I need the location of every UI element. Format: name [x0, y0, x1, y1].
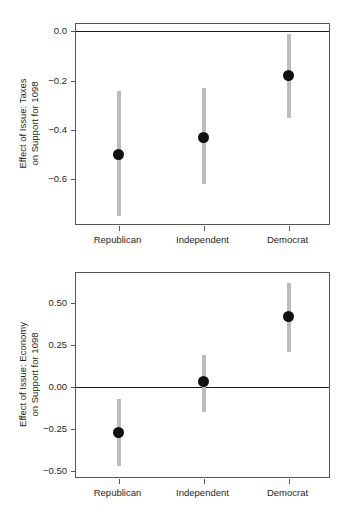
y-axis-tick — [71, 130, 76, 131]
y-axis-tick-label: −0.25 — [30, 422, 67, 433]
x-axis-label-republican: Republican — [94, 487, 142, 498]
x-axis-tick — [119, 479, 120, 484]
x-axis-tick — [204, 226, 205, 231]
y-axis-tick-label: 0.50 — [30, 297, 67, 308]
figure-coefficient-plots: Effect of Issue: Taxes on Support for 10… — [0, 0, 348, 512]
y-axis-tick — [71, 81, 76, 82]
y-axis-tick — [71, 471, 76, 472]
y-axis-tick-label: 0.00 — [30, 380, 67, 391]
plot-frame-economy — [75, 272, 330, 478]
y-axis-tick-label: −0.6 — [30, 173, 67, 184]
y-axis-tick — [71, 179, 76, 180]
y-axis-tick — [71, 345, 76, 346]
x-axis-label-republican: Republican — [94, 234, 142, 245]
x-axis-label-independent: Independent — [176, 234, 229, 245]
point-estimate-republican — [113, 149, 124, 160]
point-estimate-republican — [113, 427, 124, 438]
point-estimate-democrat — [283, 70, 294, 81]
y-axis-tick-label: 0.0 — [30, 25, 67, 36]
panel-taxes: Effect of Issue: Taxes on Support for 10… — [0, 0, 348, 256]
y-axis-tick-label: −0.2 — [30, 74, 67, 85]
x-axis-tick — [289, 479, 290, 484]
y-axis-tick-label: −0.4 — [30, 123, 67, 134]
x-axis-label-democrat: Democrat — [267, 487, 308, 498]
y-axis-tick — [71, 31, 76, 32]
x-axis-label-independent: Independent — [176, 487, 229, 498]
point-estimate-independent — [198, 132, 209, 143]
x-axis-tick — [204, 479, 205, 484]
y-axis-tick-label: −0.50 — [30, 464, 67, 475]
x-axis-tick — [119, 226, 120, 231]
y-axis-tick-label: 0.25 — [30, 339, 67, 350]
point-estimate-independent — [198, 376, 209, 387]
point-estimate-democrat — [283, 311, 294, 322]
plot-frame-taxes — [75, 23, 330, 225]
plot-area-economy — [76, 273, 329, 477]
y-axis-tick — [71, 303, 76, 304]
x-axis-label-democrat: Democrat — [267, 234, 308, 245]
x-axis-tick — [289, 226, 290, 231]
y-axis-tick — [71, 429, 76, 430]
plot-area-taxes — [76, 24, 329, 224]
zero-reference-line — [76, 31, 329, 32]
panel-economy: Effect of Issue: Economy on Support for … — [0, 256, 348, 512]
y-axis-tick — [71, 387, 76, 388]
